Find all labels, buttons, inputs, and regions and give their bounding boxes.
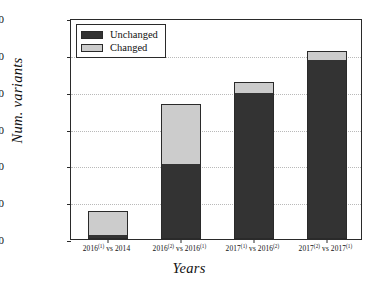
bar-segment-changed[interactable] bbox=[89, 212, 127, 235]
y-tick-label: 6000 bbox=[0, 124, 4, 136]
bar-segment-changed[interactable] bbox=[308, 52, 346, 60]
bar-stack[interactable] bbox=[88, 211, 128, 239]
y-tick-mark bbox=[67, 241, 71, 242]
bar-segment-changed[interactable] bbox=[162, 105, 200, 164]
legend-item-changed: Changed bbox=[81, 41, 158, 54]
bar-segment-unchanged[interactable] bbox=[235, 93, 273, 238]
y-tick-label: 0 bbox=[0, 234, 4, 246]
legend-item-unchanged: Unchanged bbox=[81, 28, 158, 41]
x-tick-label: 2016(2) vs 2016(1) bbox=[153, 243, 207, 253]
bar-segment-unchanged[interactable] bbox=[308, 60, 346, 238]
y-tick-label: 12000 bbox=[0, 13, 4, 25]
bar-segment-unchanged[interactable] bbox=[162, 164, 200, 238]
bar-stack[interactable] bbox=[307, 51, 347, 239]
x-tick-label: 2017(1) vs 2016(2) bbox=[226, 243, 280, 253]
x-tick-label: 2017(2) vs 2017(1) bbox=[299, 243, 353, 253]
bar-group[interactable] bbox=[217, 20, 290, 239]
bar-group[interactable] bbox=[290, 20, 363, 239]
x-axis-title: Years bbox=[0, 260, 378, 277]
bar-stack[interactable] bbox=[234, 82, 274, 239]
x-tick-label: 2016(1) vs 2014 bbox=[83, 243, 130, 253]
y-tick-label: 2000 bbox=[0, 197, 4, 209]
legend-label-changed: Changed bbox=[110, 42, 147, 53]
chart-legend: Unchanged Changed bbox=[76, 24, 166, 58]
y-axis-title: Num. variants bbox=[9, 26, 26, 176]
y-tick-label: 8000 bbox=[0, 87, 4, 99]
legend-swatch-changed bbox=[81, 44, 103, 52]
y-tick-label: 10000 bbox=[0, 50, 4, 62]
legend-label-unchanged: Unchanged bbox=[110, 29, 158, 40]
y-tick-label: 4000 bbox=[0, 160, 4, 172]
chart-figure: Unchanged Changed Num. variants Years 02… bbox=[0, 0, 378, 288]
bar-segment-changed[interactable] bbox=[235, 83, 273, 92]
legend-swatch-unchanged bbox=[81, 31, 103, 39]
plot-area: Unchanged Changed bbox=[70, 19, 362, 240]
bar-stack[interactable] bbox=[161, 104, 201, 239]
bar-segment-unchanged[interactable] bbox=[89, 235, 127, 238]
